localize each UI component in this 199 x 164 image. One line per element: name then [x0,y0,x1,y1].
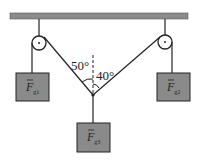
angle-label-right: 40° [96,69,114,82]
angle-label-left: 50° [71,59,89,72]
weight-label-g3-sub: g3 [94,139,100,145]
left-angle-arc [82,79,93,82]
weight-label-g1-sub: g1 [33,89,39,95]
weight-label-g2-sub: g2 [174,89,180,95]
weight-label-g2: Fg2 [167,81,180,98]
weight-label-g3: Fg3 [87,131,100,148]
weight-label-g1: Fg1 [26,81,39,98]
right-angle-arc [93,84,99,88]
ceiling-bar [10,13,188,19]
right-rope-diagonal [93,37,160,95]
pulley-diagram: 50° 40° Fg1 Fg2 Fg3 [0,0,199,164]
right-pulley-axle [164,41,166,43]
left-pulley-axle [38,42,40,44]
